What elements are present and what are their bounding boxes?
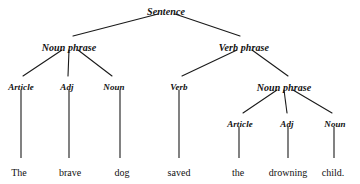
- vp-to-noun-phrase: [252, 50, 288, 76]
- root-to-noun-phrase: [73, 14, 158, 36]
- leaf-word: drowning: [269, 168, 307, 178]
- np-left-to-noun: [78, 50, 112, 76]
- np-right-to-adj: [284, 90, 287, 113]
- node-adj-right: Adj: [280, 120, 293, 129]
- node-noun-right: Noun: [324, 120, 345, 129]
- vp-to-verb: [182, 50, 237, 76]
- np-left-to-article: [23, 50, 62, 76]
- np-right-to-noun: [293, 90, 332, 113]
- leaf-word: the: [232, 168, 244, 178]
- node-noun-phrase-right: Noun phrase: [257, 83, 312, 93]
- node-verb-phrase: Verb phrase: [219, 43, 269, 53]
- leaf-word: The: [11, 168, 27, 178]
- leaf-word: dog: [115, 168, 130, 178]
- root-to-verb-phrase: [175, 14, 240, 36]
- np-right-to-article: [243, 90, 277, 113]
- syntax-tree-diagram: Sentence Noun phrase Verb phrase Article…: [0, 0, 360, 184]
- node-verb: Verb: [170, 83, 187, 92]
- leaf-word: brave: [59, 168, 81, 178]
- leaf-word: saved: [168, 168, 191, 178]
- node-noun-phrase-left: Noun phrase: [42, 43, 97, 53]
- node-noun-left: Noun: [103, 83, 124, 92]
- np-left-to-adj: [68, 50, 69, 76]
- node-article-left: Article: [8, 83, 34, 92]
- node-adj-left: Adj: [60, 83, 73, 92]
- node-sentence: Sentence: [147, 7, 185, 17]
- node-article-right: Article: [227, 120, 253, 129]
- leaf-word: child.: [322, 168, 345, 178]
